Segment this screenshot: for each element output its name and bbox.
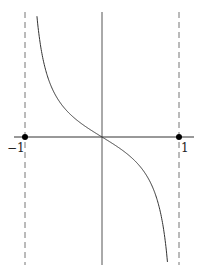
tick-label-left: −1	[7, 141, 25, 155]
point-right	[176, 134, 182, 140]
point-left	[22, 134, 28, 140]
chart-canvas: −1 1	[0, 0, 200, 269]
tick-label-right: 1	[181, 141, 189, 155]
